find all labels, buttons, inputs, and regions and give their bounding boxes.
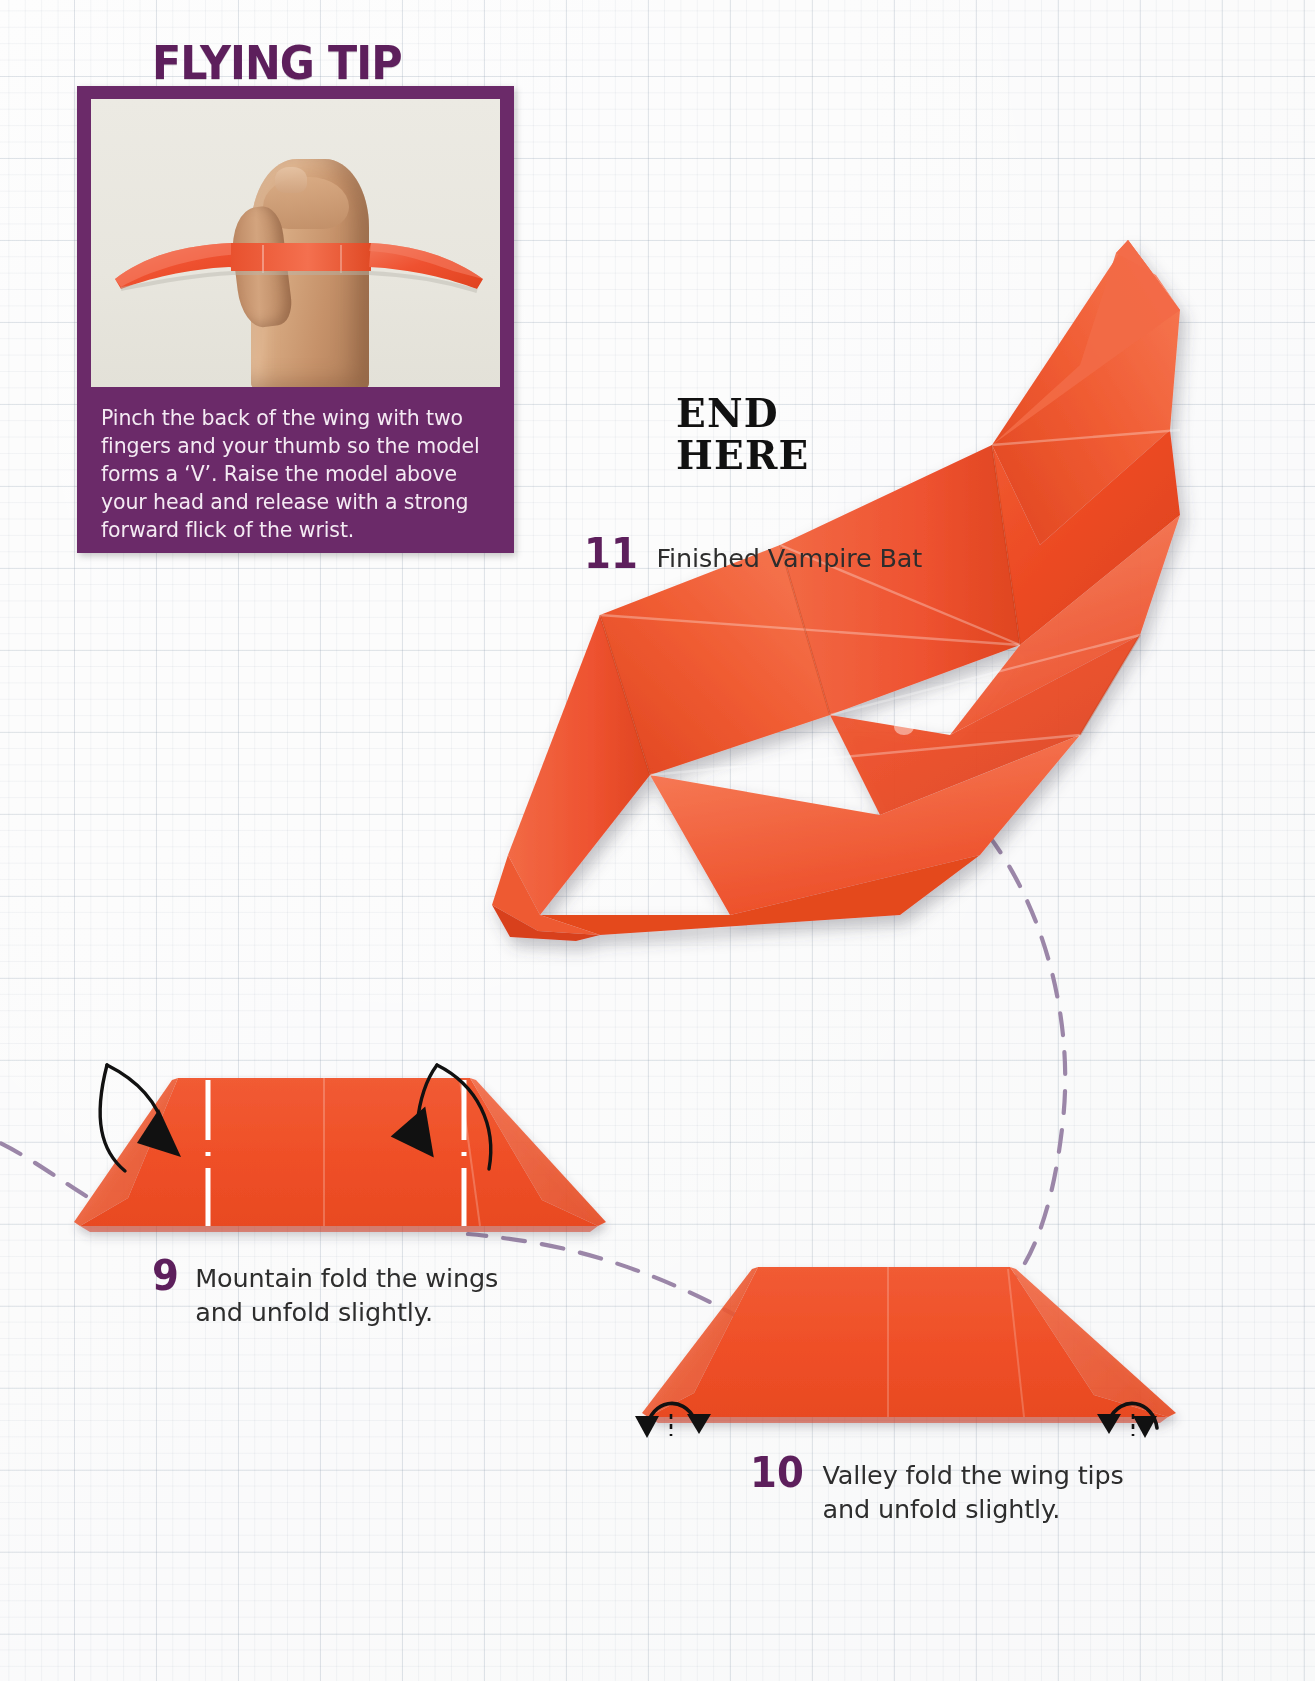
flying-tip-card: Pinch the back of the wing with two fing… [77,86,514,553]
step-11-model [480,215,1220,975]
flying-tip-caption: Pinch the back of the wing with two fing… [101,404,493,544]
step-11-text: Finished Vampire Bat [656,533,922,575]
step-11-caption: 11 Finished Vampire Bat [584,533,922,575]
end-here-marker: END HERE [676,393,810,476]
end-here-line2: HERE [676,435,810,477]
flying-tip-photo [91,99,500,387]
step-10-text-line2: and unfold slightly. [822,1492,1123,1526]
flying-tip-title: FLYING TIP [152,36,402,90]
step-9-text-line2: and unfold slightly. [195,1295,498,1329]
thumbnail-shape [275,167,307,193]
step-10-text-line1: Valley fold the wing tips [822,1458,1123,1492]
valley-fold-arrow-left [635,1403,711,1438]
valley-fold-arrow-right [1097,1403,1157,1438]
step-10-text: Valley fold the wing tips and unfold sli… [822,1452,1123,1526]
step-9-fold-arrows [85,1045,585,1195]
step-9-text-line1: Mountain fold the wings [195,1261,498,1295]
step-9-caption: 9 Mountain fold the wings and unfold sli… [152,1255,498,1329]
step-10-number: 10 [750,1452,804,1494]
mountain-fold-arrow-right [391,1065,491,1169]
step-10-fold-arrows [625,1370,1195,1450]
step-11-text-line1: Finished Vampire Bat [656,541,922,575]
step-10-caption: 10 Valley fold the wing tips and unfold … [750,1452,1124,1526]
held-paper-plane [113,227,485,317]
step-9-text: Mountain fold the wings and unfold sligh… [195,1255,498,1329]
step-11-number: 11 [584,533,638,575]
step-9-number: 9 [152,1255,179,1297]
mountain-fold-arrow-left [100,1065,181,1171]
end-here-line1: END [676,393,810,435]
